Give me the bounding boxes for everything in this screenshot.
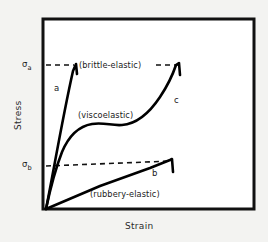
sigma-b-subscript: b	[27, 164, 31, 172]
annotation-brittle-elastic: (brittle-elastic)	[79, 61, 141, 69]
sigma-a-subscript: a	[27, 64, 31, 72]
x-axis-title: Strain	[125, 222, 153, 231]
curve-label-a: a	[54, 84, 59, 93]
curve-label-b: b	[152, 169, 157, 178]
chart-figure: σa σb (brittle-elastic) (viscoelastic) (…	[0, 0, 268, 242]
y-axis-title: Stress	[14, 101, 23, 130]
annotation-viscoelastic: (viscoelastic)	[78, 111, 133, 119]
curve-label-c: c	[174, 96, 179, 105]
y-tick-sigma-b: σb	[22, 160, 32, 171]
plot-frame	[43, 19, 254, 209]
y-tick-sigma-a: σa	[22, 60, 31, 71]
stress-strain-plot	[0, 0, 268, 242]
annotation-rubbery-elastic: (rubbery-elastic)	[90, 190, 160, 198]
